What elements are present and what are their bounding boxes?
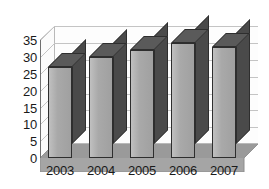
bar — [48, 67, 72, 158]
x-tick-label: 2007 — [204, 164, 244, 177]
bar-front-face — [212, 47, 236, 158]
bar-front-face — [89, 57, 113, 158]
bar-front-face — [48, 67, 72, 158]
x-tick-label: 2003 — [40, 164, 80, 177]
y-tick-label: 25 — [3, 68, 37, 81]
y-tick-label: 0 — [3, 152, 37, 165]
bar — [130, 50, 154, 158]
y-tick-label: 10 — [3, 118, 37, 131]
y-tick-label: 5 — [3, 135, 37, 148]
x-tick-label: 2005 — [122, 164, 162, 177]
bar-chart: 35 30 25 20 15 10 5 0 200320042005200620… — [0, 0, 269, 189]
bar-front-face — [171, 43, 195, 158]
grid-connector-30 — [40, 43, 55, 58]
bar-front-face — [130, 50, 154, 158]
bar — [171, 43, 195, 158]
y-axis-line — [40, 40, 41, 158]
y-tick-label: 35 — [3, 34, 37, 47]
gridline-35 — [54, 26, 258, 27]
y-tick-label: 30 — [3, 51, 37, 64]
x-tick-label: 2006 — [163, 164, 203, 177]
y-tick-label: 15 — [3, 102, 37, 115]
y-axis-labels: 35 30 25 20 15 10 5 0 — [0, 0, 37, 189]
bar — [89, 57, 113, 158]
y-tick-label: 20 — [3, 85, 37, 98]
grid-connector-35 — [40, 26, 55, 41]
bar — [212, 47, 236, 158]
x-tick-label: 2004 — [81, 164, 121, 177]
